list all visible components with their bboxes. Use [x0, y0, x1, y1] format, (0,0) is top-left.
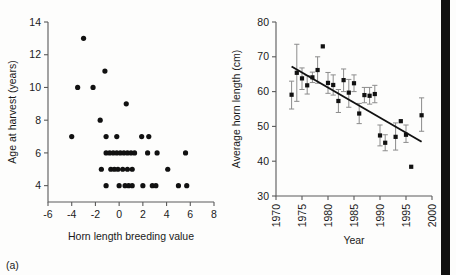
scatter-point: [165, 167, 170, 172]
figure-two-panel: 468101214-6-4-202468Horn length breeding…: [0, 0, 456, 275]
panel-b-xtick-label: 2000: [426, 204, 438, 228]
data-marker: [290, 93, 294, 97]
scatter-point: [98, 118, 103, 123]
panel-a-scatter: 468101214-6-4-202468Horn length breeding…: [0, 0, 228, 275]
data-marker: [336, 99, 340, 103]
scatter-point: [117, 183, 122, 188]
data-marker: [378, 133, 382, 137]
scan-edge-artifact: [441, 0, 450, 275]
scatter-point: [140, 183, 145, 188]
scatter-point: [102, 68, 107, 73]
panel-a-xtick-label: 6: [187, 208, 193, 220]
scatter-point: [90, 85, 95, 90]
data-marker: [321, 44, 325, 48]
panel-b-ytick-label: 40: [257, 155, 269, 167]
scatter-point: [124, 101, 129, 106]
panel-b-xtick-label: 1995: [400, 204, 412, 228]
panel-a-ytick-label: 4: [35, 179, 41, 191]
panel-a-xtick-label: -4: [67, 208, 76, 220]
panel-a-ytick-label: 10: [29, 81, 41, 93]
panel-b-xtick-label: 1980: [322, 204, 334, 228]
scatter-point: [146, 134, 151, 139]
scatter-point: [130, 167, 135, 172]
scatter-point: [130, 183, 135, 188]
scatter-point: [184, 183, 189, 188]
scatter-point: [115, 167, 120, 172]
panel-b-xtick-label: 1985: [348, 204, 360, 228]
scatter-point: [114, 134, 119, 139]
panel-b-ytick-label: 70: [257, 50, 269, 62]
scatter-point: [154, 150, 159, 155]
scatter-point: [81, 36, 86, 41]
panel-b-ytick-label: 50: [257, 120, 269, 132]
scatter-point: [132, 150, 137, 155]
panel-a-letter: (a): [6, 259, 19, 271]
data-marker: [357, 111, 361, 115]
panel-b-plot: 3040506070801970197519801985199019952000…: [228, 0, 456, 275]
data-marker: [399, 119, 403, 123]
data-marker: [409, 165, 413, 169]
data-marker: [373, 92, 377, 96]
panel-b-timeseries: 3040506070801970197519801985199019952000…: [228, 0, 456, 275]
panel-a-xtick-label: -2: [91, 208, 100, 220]
scatter-point: [139, 134, 144, 139]
scatter-point: [183, 150, 188, 155]
scatter-point: [75, 85, 80, 90]
scatter-point: [104, 134, 109, 139]
scatter-point: [69, 134, 74, 139]
panel-b-xtick-label: 1990: [374, 204, 386, 228]
scatter-point: [120, 167, 125, 172]
regression-trendline: [292, 67, 422, 142]
panel-a-axes: [48, 22, 214, 202]
scatter-point: [176, 183, 181, 188]
panel-a-ytick-label: 6: [35, 147, 41, 159]
panel-a-plot: 468101214-6-4-202468Horn length breeding…: [0, 0, 228, 275]
panel-b-ytick-label: 60: [257, 85, 269, 97]
scatter-point: [99, 167, 104, 172]
data-marker: [394, 135, 398, 139]
data-marker: [368, 94, 372, 98]
panel-b-yaxis-label: Average horn length (cm): [230, 50, 242, 168]
panel-b-ytick-label: 80: [257, 16, 269, 28]
scatter-point: [125, 167, 130, 172]
scatter-point: [104, 183, 109, 188]
panel-b-xaxis-label: Year: [343, 234, 365, 246]
data-marker: [342, 78, 346, 82]
panel-b-xtick-label: 1975: [296, 204, 308, 228]
data-marker: [383, 141, 387, 145]
scatter-point: [145, 150, 150, 155]
data-marker: [420, 113, 424, 117]
panel-b-axes: [276, 22, 432, 196]
data-marker: [300, 76, 304, 80]
data-marker: [326, 81, 330, 85]
panel-a-xtick-label: 0: [116, 208, 122, 220]
data-marker: [347, 91, 351, 95]
data-marker: [305, 83, 309, 87]
panel-a-ytick-label: 8: [35, 114, 41, 126]
panel-a-xtick-label: 8: [211, 208, 217, 220]
data-marker: [316, 68, 320, 72]
panel-a-yaxis-label: Age at harvest (years): [6, 60, 18, 163]
panel-a-xtick-label: 4: [164, 208, 170, 220]
data-marker: [331, 83, 335, 87]
panel-a-ytick-label: 14: [29, 16, 41, 28]
panel-a-xaxis-label: Horn length breeding value: [68, 230, 194, 242]
panel-a-xtick-label: 2: [140, 208, 146, 220]
panel-a-ytick-label: 12: [29, 48, 41, 60]
panel-a-xtick-label: -6: [43, 208, 52, 220]
data-marker: [362, 93, 366, 97]
data-marker: [352, 81, 356, 85]
panel-b-ytick-label: 30: [257, 190, 269, 202]
panel-b-xtick-label: 1970: [270, 204, 282, 228]
scatter-point: [153, 183, 158, 188]
